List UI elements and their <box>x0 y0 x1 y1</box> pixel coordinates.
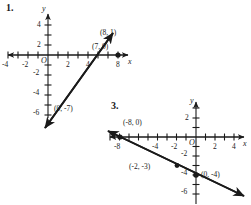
figure-3-point-minus2-minus3 <box>175 163 180 168</box>
figure-1-point-7-0 <box>115 52 120 57</box>
figure-1-xtick-4: 4 <box>86 60 90 69</box>
figure-1-xtick--4: -4 <box>2 60 8 69</box>
figure-3-xtick--4: -4 <box>152 142 158 151</box>
figure-3: 3. <box>104 96 251 205</box>
figure-3-xtick--8: -8 <box>114 142 120 151</box>
figure-3-label-minus8-0: (-8, 0) <box>123 118 142 127</box>
figure-1-y-axis-label: y <box>42 4 46 13</box>
figure-3-label-0-minus4: (0, -4) <box>201 170 220 179</box>
figure-3-y-axis-label: y <box>190 96 194 105</box>
figure-3-x-axis-label: x <box>243 139 247 148</box>
figure-3-ytick-2: 2 <box>185 113 189 122</box>
figure-1-ytick-2: 2 <box>37 40 41 49</box>
figure-3-ytick--6: -6 <box>181 187 187 196</box>
figure-3-point-minus8-0 <box>117 134 122 139</box>
figure-1-xtick--2: -2 <box>22 60 28 69</box>
figure-1-label-7-0: (7, 0) <box>92 42 108 51</box>
figure-3-xtick--2: -2 <box>171 142 177 151</box>
figure-1-origin-label: O <box>41 56 47 65</box>
figure-1-x-axis-label: x <box>128 57 132 66</box>
figure-3-ytick--2: -2 <box>181 149 187 158</box>
figure-1-label-8-1: (8, 1) <box>100 28 116 37</box>
figure-3-point-0-minus4 <box>193 172 199 178</box>
figure-1-ytick--4: -4 <box>33 88 39 97</box>
figure-1-xtick-2: 2 <box>66 60 70 69</box>
figure-1-ytick--6: -6 <box>33 108 39 117</box>
figure-1-label-0-minus7: (0, -7) <box>54 104 73 113</box>
figure-1-ytick--2: -2 <box>33 68 39 77</box>
figure-3-label-minus2-minus3: (-2, -3) <box>129 162 150 171</box>
worksheet-page: 1. <box>0 0 251 205</box>
figure-3-plot <box>104 96 251 205</box>
figure-3-origin-label: O <box>189 138 195 147</box>
figure-3-ytick--4: -4 <box>181 168 187 177</box>
figure-3-xtick-2: 2 <box>213 142 217 151</box>
figure-1-ytick-4: 4 <box>37 20 41 29</box>
figure-3-xtick-4: 4 <box>232 142 236 151</box>
figure-1-xtick-8: 8 <box>116 60 120 69</box>
